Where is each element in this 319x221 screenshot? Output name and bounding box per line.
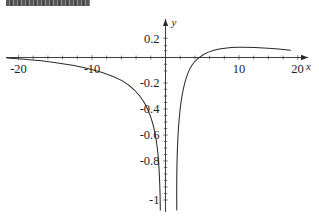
y-tick-label-minus-0p2: -0.2 — [140, 76, 160, 90]
x-tick-label-20: 20 — [291, 62, 304, 76]
x-tick-label-minus-10: -10 — [84, 62, 101, 76]
y-tick-label-minus-0p4: -0.4 — [140, 102, 161, 116]
x-tick-label-minus-20: -20 — [10, 62, 27, 76]
y-axis-label: y — [171, 16, 177, 28]
y-tick-label-minus-1: -1 — [149, 193, 159, 207]
x-tick-label-10: 10 — [233, 62, 246, 76]
y-tick-label-minus-0p6: -0.6 — [140, 128, 160, 142]
y-tick-label-minus-0p8: -0.8 — [140, 154, 160, 168]
plot-canvas: -20 -10 10 20 0.2 -0.2 -0.4 -0.6 -0.8 -1… — [0, 0, 319, 221]
graph-figure: truncated-header-text — [0, 0, 319, 221]
y-axis-arrowhead — [163, 19, 168, 26]
curve-left-branch — [7, 58, 160, 210]
y-tick-label-0p2: 0.2 — [144, 32, 160, 46]
x-axis-label: x — [305, 60, 311, 72]
